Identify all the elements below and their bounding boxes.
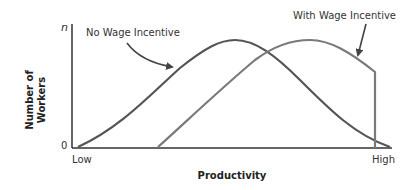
chart: n 0 Low High Productivity Number of Work…	[0, 0, 420, 190]
no-wage-incentive-curve	[78, 40, 390, 147]
y-zero-label: 0	[61, 140, 67, 151]
y-top-label: n	[61, 21, 68, 34]
x-axis-title: Productivity	[198, 170, 267, 181]
no-wage-arrow-icon	[127, 43, 172, 67]
with-wage-arrow-icon	[358, 24, 366, 55]
x-low-label: Low	[72, 154, 92, 165]
no-wage-annotation: No Wage Incentive	[86, 27, 180, 38]
with-wage-incentive-curve	[158, 40, 375, 148]
x-high-label: High	[372, 154, 395, 165]
with-wage-annotation: With Wage Incentive	[293, 10, 396, 21]
y-axis-title-line1: Number of	[24, 70, 35, 130]
y-axis-title-line2: Workers	[36, 77, 47, 124]
